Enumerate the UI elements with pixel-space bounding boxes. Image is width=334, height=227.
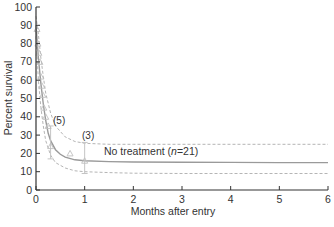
y-tick-label: 10	[20, 165, 32, 177]
x-ticks: 0123456	[33, 186, 331, 205]
x-tick-label: 0	[33, 193, 39, 205]
no-treatment-prefix: No treatment (	[104, 145, 172, 157]
y-tick-label: 30	[20, 129, 32, 141]
annotation-n5: (5)	[53, 115, 65, 126]
y-tick-label: 80	[20, 37, 32, 49]
upper-ci-line	[36, 16, 328, 144]
y-tick-label: 60	[20, 74, 32, 86]
triangle-marker-icon	[67, 150, 73, 156]
y-tick-label: 40	[20, 110, 32, 122]
x-tick-label: 5	[276, 193, 282, 205]
y-tick-label: 70	[20, 55, 32, 67]
y-tick-label: 50	[20, 92, 32, 104]
x-tick-label: 3	[179, 193, 185, 205]
y-tick-label: 100	[14, 1, 32, 13]
y-tick-label: 20	[20, 147, 32, 159]
no-treatment-suffix: =21)	[177, 145, 198, 157]
axes: 0102030405060708090100 0123456	[14, 1, 331, 206]
x-tick-label: 2	[130, 193, 136, 205]
x-axis-label: Months after entry	[131, 205, 216, 217]
annotation-no-treatment: No treatment (n=21)	[104, 145, 198, 157]
y-tick-label: 0	[26, 184, 32, 196]
survival-chart: 0102030405060708090100 0123456 Months af…	[0, 0, 334, 227]
x-tick-label: 1	[82, 193, 88, 205]
x-tick-label: 6	[325, 193, 331, 205]
y-tick-label: 90	[20, 19, 32, 31]
annotation-n3: (3)	[82, 130, 94, 141]
x-tick-label: 4	[228, 193, 234, 205]
y-axis-label: Percent survival	[2, 61, 14, 136]
